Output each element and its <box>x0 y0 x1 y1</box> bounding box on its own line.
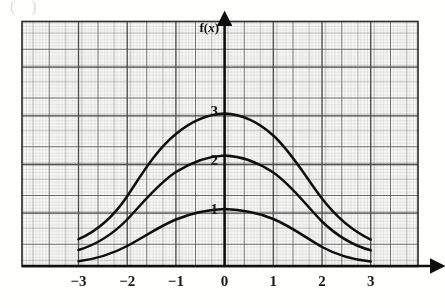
y-axis-label: f(x) <box>199 20 219 35</box>
x-tick-label: −1 <box>168 273 184 289</box>
grid-background <box>22 22 418 267</box>
x-tick-label: −3 <box>70 273 86 289</box>
x-tick-label: 2 <box>318 273 326 289</box>
x-tick-label: −2 <box>119 273 135 289</box>
x-tick-labels: −3 −2 −1 0 1 2 3 <box>70 273 374 289</box>
x-tick-label: 1 <box>270 273 278 289</box>
graph-plot: −3 −2 −1 0 1 2 3 1 2 3 f(x) <box>0 0 445 308</box>
x-tick-label: 3 <box>367 273 375 289</box>
figure-root: ( ) <box>0 0 445 308</box>
x-tick-label: 0 <box>221 273 229 289</box>
y-axis-label-fn: f( <box>199 20 208 35</box>
y-tick-label: 3 <box>211 103 219 119</box>
y-tick-label: 1 <box>211 201 219 217</box>
y-tick-label: 2 <box>211 152 219 168</box>
y-axis-label-close: ) <box>215 20 219 35</box>
